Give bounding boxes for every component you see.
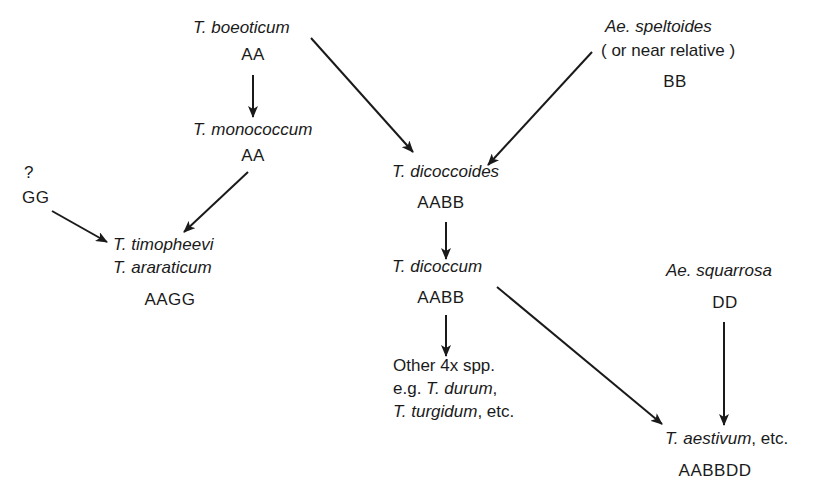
- species-dicoccoides: T. dicoccoides: [392, 162, 499, 182]
- aestivum-etc-suffix: , etc.: [751, 429, 788, 448]
- other-4x-line1: Other 4x spp.: [393, 356, 495, 376]
- note-near-relative: ( or near relative ): [601, 41, 735, 61]
- comma-suffix: ,: [493, 379, 498, 398]
- arrow-monococcum-to-timopheevi: [184, 172, 248, 232]
- species-monococcum: T. monococcum: [193, 120, 312, 140]
- arrow-boeoticum-to-dicoccoides: [311, 38, 413, 152]
- eg-prefix: e.g.: [393, 379, 426, 398]
- genome-gg: GG: [22, 188, 49, 208]
- genome-dd: DD: [712, 293, 738, 313]
- species-squarrosa: Ae. squarrosa: [666, 261, 772, 281]
- aestivum-label: T. aestivum, etc.: [665, 429, 788, 449]
- species-timopheevi: T. timopheevi: [113, 235, 213, 255]
- other-4x-line2: e.g. T. durum,: [393, 379, 497, 399]
- species-araraticum: T. araraticum: [113, 258, 212, 278]
- arrow-dicoccum-to-aestivum: [497, 287, 662, 424]
- species-turgidum: T. turgidum: [393, 402, 477, 421]
- genome-boeoticum: AA: [241, 45, 265, 65]
- etc-suffix: , etc.: [477, 402, 514, 421]
- species-dicoccum: T. dicoccum: [392, 257, 482, 277]
- species-durum: T. durum: [426, 379, 492, 398]
- genome-bb: BB: [663, 72, 687, 92]
- arrow-gg-to-timopheevi: [52, 211, 107, 242]
- arrow-speltoides-to-dicoccoides: [488, 52, 592, 165]
- wheat-evolution-diagram: T. boeoticum AA T. monococcum AA ? GG T.…: [0, 0, 821, 500]
- genome-dicoccum: AABB: [417, 288, 464, 308]
- species-unknown: ?: [24, 163, 33, 183]
- genome-dicoccoides: AABB: [417, 193, 464, 213]
- species-speltoides: Ae. speltoides: [605, 17, 712, 37]
- genome-monococcum: AA: [241, 146, 265, 166]
- other-4x-line3: T. turgidum, etc.: [393, 402, 514, 422]
- species-boeoticum: T. boeoticum: [193, 18, 290, 38]
- genome-aabbdd: AABBDD: [679, 461, 752, 481]
- species-aestivum: T. aestivum: [665, 429, 751, 448]
- genome-aagg: AAGG: [144, 290, 195, 310]
